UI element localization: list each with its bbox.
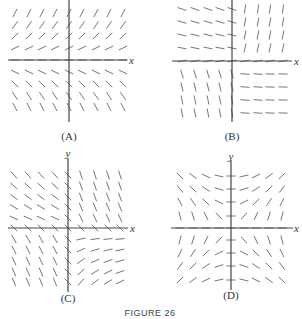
slope-segment — [106, 33, 112, 39]
slope-segment — [119, 193, 122, 201]
slope-segment — [241, 100, 249, 101]
slope-segment — [39, 268, 42, 276]
slope-segment — [204, 236, 208, 244]
slope-segment — [280, 249, 284, 257]
slope-segment — [179, 236, 181, 244]
slope-segment — [11, 195, 18, 200]
slope-segment — [80, 171, 83, 179]
slope-segment — [240, 200, 248, 204]
slope-segment — [80, 22, 85, 29]
slope-segment — [254, 87, 262, 88]
slope-segment — [268, 236, 271, 244]
slope-segment — [282, 5, 283, 13]
slope-segment — [40, 93, 45, 100]
x-axis-label: x — [128, 54, 134, 66]
slope-segment — [53, 246, 57, 253]
slope-segment — [282, 44, 284, 52]
slope-segment — [52, 172, 58, 178]
slope-segment — [53, 93, 58, 100]
slope-segment — [280, 198, 284, 205]
slope-segment — [12, 268, 15, 276]
slope-segment — [279, 173, 285, 179]
slope-segment — [12, 81, 18, 87]
panel-label: (A) — [61, 130, 77, 143]
slope-segment — [121, 22, 126, 29]
slope-segment — [24, 205, 31, 209]
slope-segment — [252, 278, 260, 282]
slope-segment — [93, 203, 96, 211]
slope-segment — [39, 33, 45, 39]
slope-segment — [269, 5, 270, 13]
slope-segment — [38, 172, 44, 178]
slope-segment — [107, 182, 110, 190]
slope-segment — [12, 246, 16, 253]
slope-segment — [107, 193, 110, 201]
slope-segment — [27, 103, 31, 110]
slope-segment — [252, 174, 260, 178]
slope-segment — [11, 172, 17, 178]
slope-segment — [106, 214, 109, 222]
slope-segment — [207, 83, 209, 91]
panel-c: xy(C) — [8, 147, 135, 305]
slope-segment — [13, 103, 17, 110]
slope-segment — [53, 257, 57, 265]
x-axis-label: x — [129, 222, 135, 234]
slope-segment — [27, 9, 31, 16]
slope-segment — [53, 235, 57, 242]
slope-segment — [254, 212, 258, 220]
slope-segment — [78, 259, 85, 264]
slope-segment — [116, 239, 124, 240]
slope-segment — [219, 70, 221, 78]
slope-segment — [13, 9, 17, 16]
slope-segment — [269, 18, 270, 26]
slope-segment — [79, 203, 82, 211]
slope-segment — [91, 259, 99, 262]
slope-segment — [11, 46, 19, 50]
slope-segment — [107, 171, 110, 179]
slope-segment — [241, 74, 249, 75]
slope-segment — [240, 188, 248, 191]
slope-segment — [105, 70, 113, 74]
slope-segment — [240, 251, 247, 255]
slope-segment — [39, 246, 43, 253]
slope-segment — [121, 9, 125, 16]
slope-segment — [190, 186, 196, 192]
slope-segment — [94, 103, 98, 110]
slope-segment — [39, 235, 43, 242]
slope-segment — [215, 200, 223, 204]
slope-segment — [25, 195, 32, 200]
slope-segment — [191, 34, 199, 36]
slope-segment — [52, 195, 59, 200]
slope-segment — [281, 212, 283, 220]
slope-segment — [244, 5, 245, 13]
slope-segment — [119, 70, 127, 74]
slope-segment — [94, 193, 97, 201]
slope-segment — [52, 33, 58, 39]
slope-segment — [194, 109, 196, 117]
slope-segment — [204, 8, 212, 11]
slope-segment — [11, 183, 17, 189]
slope-segment — [178, 198, 182, 205]
slope-segment — [94, 171, 97, 179]
slope-segment — [191, 8, 199, 11]
slope-segment — [104, 260, 112, 263]
slope-segment — [216, 237, 222, 243]
slope-segment — [40, 9, 44, 16]
slope-segment — [269, 44, 271, 52]
slope-segment — [104, 280, 111, 284]
slope-segment — [53, 22, 58, 29]
slope-segment — [80, 103, 84, 110]
slope-segment — [104, 270, 112, 274]
slope-segment — [53, 268, 56, 276]
slope-segment — [181, 109, 183, 117]
slope-segment — [269, 31, 271, 39]
slope-segment — [241, 237, 247, 243]
slope-segment — [177, 277, 183, 283]
slope-segment — [53, 103, 57, 110]
slope-segment — [107, 22, 112, 29]
slope-segment — [241, 87, 249, 88]
slope-segment — [12, 278, 15, 286]
slope-segment — [80, 193, 83, 201]
slope-segment — [215, 188, 223, 190]
slope-segment — [93, 33, 99, 39]
